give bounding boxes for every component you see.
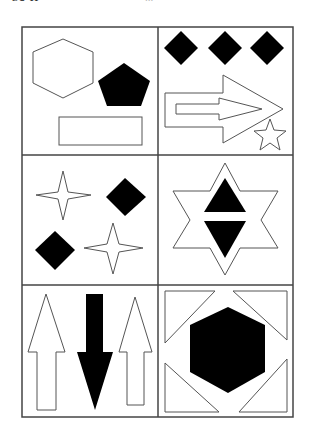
- rectangle-outline-icon: [59, 117, 142, 145]
- four-point-star-outline-icon: [36, 171, 91, 220]
- diamond-filled-icon: [208, 31, 242, 65]
- star-outline-icon: [254, 119, 286, 150]
- diamond-filled-icon: [250, 31, 284, 65]
- four-point-star-outline-icon: [84, 223, 143, 274]
- cell-r2c1[interactable]: [35, 171, 146, 274]
- cell-r3c1[interactable]: [28, 294, 152, 410]
- diamond-filled-icon: [106, 178, 146, 216]
- pentagon-filled-icon: [98, 63, 150, 106]
- puzzle-grid: [0, 0, 321, 440]
- cell-r1c1[interactable]: [33, 39, 150, 145]
- arrow-down-filled-icon: [77, 294, 113, 410]
- arrow-up-outline-icon: [119, 297, 152, 405]
- arrow-up-outline-icon: [28, 294, 65, 410]
- cell-r3c2[interactable]: [165, 291, 287, 412]
- hexagon-outline-icon: [33, 39, 93, 98]
- cell-r1c2[interactable]: [164, 31, 286, 150]
- hexagon-filled-icon: [190, 307, 265, 393]
- diamond-filled-icon: [164, 31, 198, 65]
- cell-r2c2[interactable]: [173, 163, 278, 275]
- diamond-filled-icon: [35, 231, 75, 270]
